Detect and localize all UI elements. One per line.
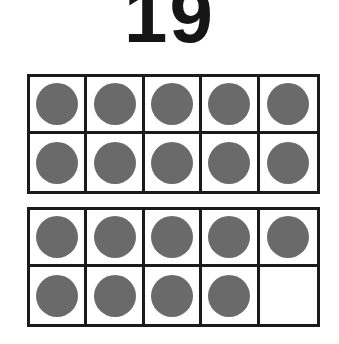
frame-cell-filled — [202, 134, 259, 191]
counter-dot — [94, 83, 136, 125]
frame-cell-empty — [260, 267, 317, 324]
counter-dot — [267, 142, 309, 184]
ten-frame-1 — [27, 74, 320, 194]
frame-cell-filled — [145, 134, 202, 191]
frame-cell-filled — [30, 134, 87, 191]
counter-dot — [267, 83, 309, 125]
counter-dot — [208, 275, 250, 317]
frame-cell-filled — [260, 134, 317, 191]
frame-cell-filled — [145, 77, 202, 134]
counter-dot — [36, 142, 78, 184]
counter-dot — [208, 216, 250, 258]
ten-frame-2 — [27, 207, 320, 327]
frame-cell-filled — [260, 210, 317, 267]
frame-cell-filled — [202, 267, 259, 324]
frame-cell-filled — [145, 267, 202, 324]
counter-dot — [151, 142, 193, 184]
counter-dot — [94, 142, 136, 184]
counter-dot — [94, 216, 136, 258]
ten-frames-container — [27, 74, 320, 327]
frame-cell-filled — [260, 77, 317, 134]
counter-dot — [151, 216, 193, 258]
counter-dot — [267, 216, 309, 258]
frame-cell-filled — [145, 210, 202, 267]
counter-dot — [208, 83, 250, 125]
counter-dot — [151, 275, 193, 317]
counter-dot — [94, 275, 136, 317]
frame-cell-filled — [87, 134, 144, 191]
counter-dot — [36, 216, 78, 258]
frame-cell-filled — [202, 77, 259, 134]
frame-cell-filled — [202, 210, 259, 267]
counter-dot — [208, 142, 250, 184]
number-label: 19 — [0, 0, 339, 54]
counter-dot — [151, 83, 193, 125]
frame-cell-filled — [87, 267, 144, 324]
frame-cell-filled — [30, 210, 87, 267]
counter-dot — [36, 275, 78, 317]
frame-cell-filled — [87, 77, 144, 134]
frame-cell-filled — [87, 210, 144, 267]
frame-cell-filled — [30, 77, 87, 134]
counter-dot — [36, 83, 78, 125]
frame-cell-filled — [30, 267, 87, 324]
